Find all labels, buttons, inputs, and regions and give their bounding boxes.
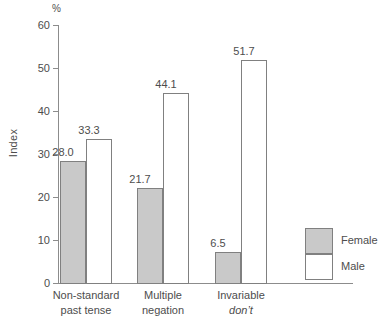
- y-tick-mark-40: [53, 111, 58, 112]
- y-tick-mark-10: [53, 240, 58, 241]
- bar-male-invariable-dont: [241, 60, 267, 284]
- bar-female-non-standard-past-tense: [60, 161, 86, 284]
- y-axis-title: Index: [7, 113, 19, 173]
- bar-female-invariable-dont: [215, 252, 241, 284]
- category-label-line1: Multiple: [144, 289, 182, 301]
- legend-label-male: Male: [341, 260, 365, 272]
- bar-male-non-standard-past-tense: [86, 139, 112, 284]
- bar-label-male-multiple-negation: 44.1: [144, 78, 188, 90]
- y-tick-mark-60: [53, 25, 58, 26]
- category-label-invariable-dont: Invariable don’t: [186, 288, 296, 318]
- y-tick-mark-50: [53, 68, 58, 69]
- y-tick-label-40: 40: [24, 105, 50, 117]
- y-axis-unit-label: %: [52, 3, 61, 14]
- y-tick-label-20: 20: [24, 191, 50, 203]
- bar-male-multiple-negation: [163, 93, 189, 284]
- y-tick-label-50: 50: [24, 62, 50, 74]
- bar-female-multiple-negation: [137, 188, 163, 284]
- bar-label-female-invariable-dont: 6.5: [196, 237, 240, 249]
- legend-swatch-female: [305, 228, 333, 254]
- bar-label-female-non-standard-past-tense: 28.0: [41, 146, 85, 158]
- y-tick-label-60: 60: [24, 19, 50, 31]
- bar-label-male-invariable-dont: 51.7: [222, 45, 266, 57]
- category-label-line2: don’t: [186, 303, 296, 318]
- bar-label-male-non-standard-past-tense: 33.3: [67, 124, 111, 136]
- legend-swatch-male: [305, 254, 333, 280]
- legend-label-female: Female: [341, 234, 378, 246]
- bar-label-female-multiple-negation: 21.7: [118, 173, 162, 185]
- category-label-line1: Invariable: [217, 289, 265, 301]
- y-tick-mark-0: [53, 283, 58, 284]
- y-tick-label-10: 10: [24, 234, 50, 246]
- y-tick-mark-20: [53, 197, 58, 198]
